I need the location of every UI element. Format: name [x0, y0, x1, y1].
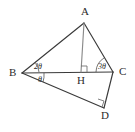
- vertex-label-c: C: [119, 66, 126, 77]
- angle-arc-dbc: [43, 73, 44, 82]
- segment-ah-altitude: [81, 23, 84, 72]
- segment-bc: [22, 72, 113, 73]
- figure-canvas: [0, 0, 135, 132]
- vertex-label-h: H: [77, 75, 85, 86]
- angle-label-abc: 2θ: [34, 63, 42, 71]
- angle-label-acb: 3θ: [98, 63, 106, 71]
- segment-dc: [104, 72, 113, 108]
- angle-label-dbc: θ: [38, 76, 42, 84]
- geometry-diagram: A B C H D 2θ θ 3θ: [0, 0, 135, 132]
- right-angle-marker-h: [81, 66, 87, 72]
- vertex-label-d: D: [101, 110, 109, 121]
- segment-ba: [22, 23, 84, 73]
- vertex-label-a: A: [81, 6, 89, 17]
- segment-bd: [22, 73, 104, 108]
- vertex-label-b: B: [9, 67, 16, 78]
